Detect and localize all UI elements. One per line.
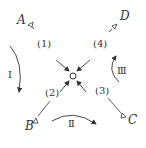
rotation-1-label: Ⅰ [8, 69, 12, 80]
path-1-label: (1) [37, 38, 51, 49]
point-c-marker-icon [121, 113, 126, 118]
arrow-4-icon [77, 60, 90, 71]
rotation-3-label: Ⅲ [117, 65, 127, 76]
rotation-2-label: Ⅱ [68, 118, 75, 129]
center-circle [70, 73, 76, 79]
arrow-1-icon [56, 60, 69, 71]
diagram-canvas: A (1) D (4) B (2) C (3) Ⅰ Ⅱ Ⅲ [0, 0, 146, 148]
arrow-3-icon [77, 81, 86, 92]
arrow-2-icon [60, 81, 69, 92]
point-c-label: C [128, 113, 137, 127]
path-3-label: (3) [95, 85, 109, 96]
point-d-marker-icon [112, 24, 117, 29]
point-a-label: A [16, 13, 26, 27]
point-d-label: D [119, 9, 130, 23]
point-a-marker-icon [28, 22, 33, 27]
point-b-label: B [24, 119, 34, 133]
path-4-label: (4) [93, 38, 107, 49]
path-2-label: (2) [45, 87, 59, 98]
